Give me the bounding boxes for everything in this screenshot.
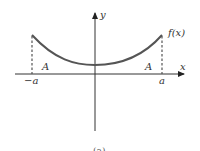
- tick-label-right: a: [159, 75, 165, 86]
- area-label-left: A: [41, 61, 49, 72]
- function-label: f(x): [167, 27, 185, 38]
- area-label-right: A: [144, 61, 152, 72]
- function-curve: [32, 35, 162, 65]
- figure-caption: (a): [93, 146, 105, 151]
- y-axis-label: y: [99, 9, 106, 20]
- tick-label-left: −a: [24, 75, 38, 86]
- diagram-canvas: y x f(x) −a a A A (a): [0, 0, 200, 151]
- x-axis-label: x: [180, 61, 186, 72]
